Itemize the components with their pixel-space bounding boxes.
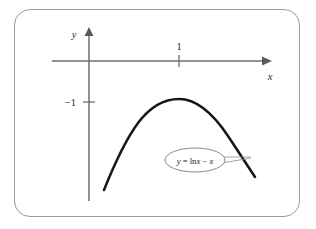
x-axis-arrowhead xyxy=(262,57,272,66)
x-axis-label: x xyxy=(267,71,273,82)
plot-canvas: y x 1 −1 y = lnx − x xyxy=(0,0,316,229)
y-axis-label: y xyxy=(71,29,77,40)
callout-text-equals: = xyxy=(181,156,190,166)
function-curve xyxy=(104,99,255,190)
callout-text-minus: − xyxy=(200,156,209,166)
y-tick-label-minus-1: −1 xyxy=(65,97,76,108)
callout-text-x-second: x xyxy=(208,156,213,166)
y-axis-arrowhead xyxy=(85,27,94,36)
callout-equation-text: y = lnx − x xyxy=(176,156,214,166)
figure-container: y x 1 −1 y = lnx − x xyxy=(0,0,316,229)
x-tick-label-1: 1 xyxy=(176,41,181,52)
